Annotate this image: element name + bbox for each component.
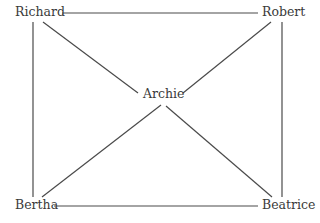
- node-robert: Robert: [262, 6, 305, 19]
- edge-richard-archie: [43, 22, 138, 93]
- network-diagram: [0, 0, 320, 223]
- node-beatrice: Beatrice: [262, 199, 315, 212]
- node-bertha: Bertha: [15, 199, 58, 212]
- edge-bertha-archie: [42, 105, 161, 197]
- edge-beatrice-archie: [166, 106, 272, 197]
- edge-robert-archie: [183, 22, 271, 93]
- node-archie: Archie: [143, 88, 184, 101]
- node-richard: Richard: [15, 6, 65, 19]
